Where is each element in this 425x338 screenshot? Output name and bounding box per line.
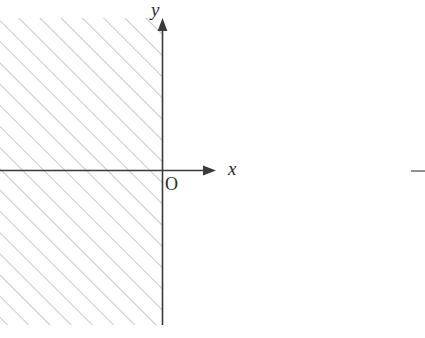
x-axis-label: x (228, 159, 236, 178)
coordinate-diagram-svg (0, 0, 425, 338)
edge-dash-icon (411, 170, 425, 172)
figure-canvas: y x O (0, 0, 425, 338)
x-axis-arrowhead (203, 166, 216, 176)
hatched-region (0, 18, 162, 325)
y-axis-label: y (151, 0, 159, 19)
origin-label: O (165, 175, 178, 193)
